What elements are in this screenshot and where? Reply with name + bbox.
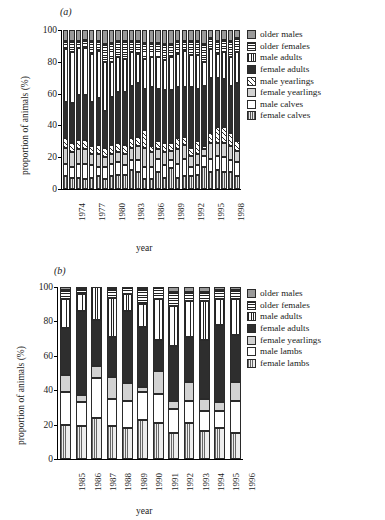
panel-a-tag: (a): [60, 6, 72, 17]
segment-maleyearlings: [135, 137, 140, 147]
segment-maleadults: [76, 48, 81, 96]
bar-1974: [63, 30, 68, 189]
segment-oldermales: [234, 30, 239, 38]
segment-femalelambs: [184, 423, 195, 459]
x-tick-label-1989: 1989: [176, 203, 186, 221]
segment-femalecalves: [228, 172, 233, 189]
segment-femalecalves: [115, 175, 120, 189]
segment-maleyearlings: [82, 140, 87, 150]
segment-maleadults: [168, 306, 179, 346]
segment-olderfemales: [96, 41, 101, 51]
legend-label-femaleyearlings: female yearlings: [260, 336, 321, 345]
segment-maleadults: [153, 299, 164, 340]
segment-oldermales: [195, 30, 200, 41]
segment-femaleadults: [63, 102, 68, 139]
segment-femaleyearlings: [76, 395, 87, 402]
x-tick-label-1987: 1987: [108, 473, 118, 491]
bar-1991: [175, 30, 180, 189]
segment-maleyearlings: [122, 145, 127, 155]
segment-olderfemales: [168, 44, 173, 57]
segment-olderfemales: [122, 287, 133, 294]
x-tick-label-1989: 1989: [139, 473, 149, 491]
bar-1980: [102, 30, 107, 189]
y-tick-label-0: 0: [48, 454, 53, 464]
bar-1993: [188, 30, 193, 189]
bar-1987: [149, 30, 154, 189]
segment-femaleadults: [89, 102, 94, 147]
segment-femalecalves: [155, 172, 160, 189]
segment-femaleyearlings: [91, 366, 102, 378]
segment-femalecalves: [89, 178, 94, 189]
x-tick-label-1974: 1974: [77, 203, 87, 221]
legend-item-olderfemales: older females: [247, 41, 321, 53]
segment-femaleyearlings: [115, 152, 120, 162]
segment-malelambs: [91, 378, 102, 418]
segment-femaleyearlings: [60, 375, 71, 392]
segment-oldermales: [228, 30, 233, 41]
segment-femaleadults: [168, 346, 179, 401]
segment-malecalves: [89, 165, 94, 178]
segment-olderfemales: [168, 292, 179, 306]
panel-b-y-ticks: 020406080100: [25, 287, 53, 459]
segment-maleadults: [69, 52, 74, 103]
segment-olderfemales: [155, 43, 160, 57]
x-tick-label-1986: 1986: [93, 473, 103, 491]
segment-femaleadults: [129, 86, 134, 138]
legend-label-maleyearlings: male yearlings: [260, 77, 314, 86]
segment-femaleyearlings: [234, 151, 239, 162]
segment-femaleyearlings: [122, 383, 133, 400]
segment-maleadults: [155, 57, 160, 89]
segment-femalecalves: [208, 172, 213, 189]
segment-malecalves: [149, 167, 154, 180]
segment-maleadults: [168, 57, 173, 90]
legend-label-maleadults: male adults: [260, 53, 302, 62]
bar-1977: [82, 30, 87, 189]
segment-oldermales: [82, 30, 87, 40]
segment-maleadults: [82, 48, 87, 96]
segment-olderfemales: [107, 289, 118, 298]
segment-maleyearlings: [215, 127, 220, 143]
segment-oldermales: [188, 30, 193, 41]
segment-femaleadults: [76, 95, 81, 140]
panel-a: (a) proportion of animals (%) 0204060801…: [0, 0, 385, 260]
segment-femaleyearlings: [63, 148, 68, 164]
segment-femaleyearlings: [135, 146, 140, 160]
y-tick-label-80: 80: [44, 316, 54, 326]
segment-femaleadults: [162, 90, 167, 142]
segment-femaleadults: [188, 87, 193, 147]
x-tick-label-1980: 1980: [117, 203, 127, 221]
bar-1995: [214, 287, 225, 459]
segment-malecalves: [96, 167, 101, 177]
segment-maleadults: [175, 54, 180, 87]
segment-malecalves: [175, 164, 180, 178]
segment-olderfemales: [221, 40, 226, 53]
segment-oldermales: [89, 30, 94, 41]
segment-maleadults: [91, 287, 102, 320]
x-tick-label-1995: 1995: [216, 203, 226, 221]
segment-olderfemales: [137, 289, 148, 304]
segment-femaleadults: [215, 78, 220, 127]
legend-item-femaleadults: female adults: [247, 64, 321, 76]
x-tick-label-1993: 1993: [201, 473, 211, 491]
legend-swatch-maleadults-icon: [247, 312, 256, 321]
segment-maleadults: [107, 298, 118, 337]
segment-olderfemales: [195, 41, 200, 55]
segment-maleyearlings: [96, 145, 101, 155]
legend-item-olderfemales: older females: [247, 300, 321, 312]
segment-femaleyearlings: [69, 152, 74, 166]
bar-1986: [142, 30, 147, 189]
segment-malecalves: [135, 160, 140, 171]
y-tick-label-60: 60: [48, 89, 58, 99]
legend-label-maleadults: male adults: [260, 312, 302, 321]
segment-femalecalves: [82, 179, 87, 189]
segment-femalelambs: [153, 423, 164, 459]
segment-femaleadults: [102, 111, 107, 148]
segment-malelambs: [122, 401, 133, 429]
segment-femaleyearlings: [107, 377, 118, 399]
bar-1996: [230, 287, 241, 459]
legend-label-malecalves: male calves: [260, 100, 303, 109]
segment-maleadults: [215, 54, 220, 78]
segment-malecalves: [122, 165, 127, 175]
y-tick-label-40: 40: [44, 385, 54, 395]
segment-oldermales: [155, 30, 160, 43]
